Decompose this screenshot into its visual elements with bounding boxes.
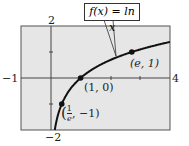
point-label-e-1: (e, 1) [130, 58, 159, 69]
point-label-1-0: (1, 0) [84, 82, 114, 93]
function-label: f(x) = ln x [84, 3, 140, 21]
point-label-1e-neg1: (1e, −1) [61, 104, 99, 123]
data-point [78, 75, 84, 81]
chart-canvas [0, 0, 189, 146]
x-min-label: −1 [2, 73, 18, 84]
y-max-label: 2 [48, 15, 55, 26]
data-point [129, 49, 135, 55]
x-max-label: 4 [172, 73, 179, 84]
y-min-label: −2 [45, 132, 61, 143]
